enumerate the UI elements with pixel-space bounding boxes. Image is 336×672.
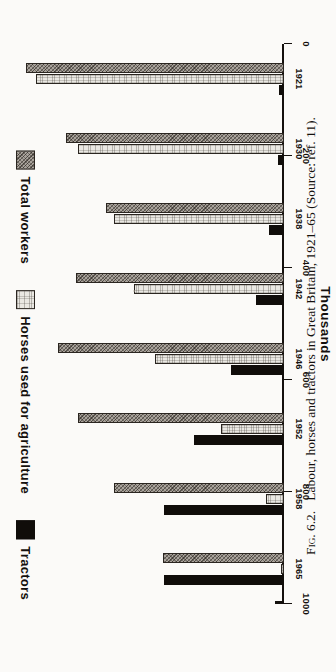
bar-group-1938: 1938 <box>106 203 284 235</box>
caption-container: Fig. 6.2. Labour, horses and tractors in… <box>290 0 332 672</box>
bar-workers-1958[interactable] <box>114 483 284 493</box>
chart-plate: Total workers Horses used for agricultur… <box>18 16 318 656</box>
bar-horses-1930[interactable] <box>78 144 284 154</box>
bar-group-1965: 1965 <box>163 553 284 585</box>
bar-horses-1965[interactable] <box>281 564 284 574</box>
bar-tractors-1952[interactable] <box>194 435 284 445</box>
bar-tractors-1930[interactable] <box>278 155 284 165</box>
bar-workers-1930[interactable] <box>66 133 284 143</box>
bar-horses-1921[interactable] <box>36 74 284 84</box>
value-axis-line <box>282 44 285 604</box>
bar-horses-1946[interactable] <box>155 354 284 364</box>
figure-caption: Fig. 6.2. Labour, horses and tractors in… <box>303 56 319 616</box>
caption-figure-number: Fig. 6.2. <box>303 511 318 555</box>
scan-speck <box>133 290 135 292</box>
bar-tractors-1946[interactable] <box>231 365 284 375</box>
bar-workers-1938[interactable] <box>106 203 284 213</box>
bar-horses-1942[interactable] <box>134 284 284 294</box>
bar-group-1930: 1930 <box>66 133 284 165</box>
bar-group-1946: 1946 <box>58 343 284 375</box>
bar-tractors-1942[interactable] <box>256 295 284 305</box>
bar-group-1921: 1921 <box>26 63 284 95</box>
scan-speck <box>20 388 22 391</box>
value-axis-end-cap <box>275 602 284 605</box>
bar-workers-1921[interactable] <box>26 63 284 73</box>
bar-group-1958: 1958 <box>114 483 284 515</box>
bar-horses-1952[interactable] <box>221 424 284 434</box>
bar-workers-1942[interactable] <box>76 273 284 283</box>
plot-area: 02004006008001000 1921193019381942194619… <box>26 44 284 604</box>
bar-workers-1965[interactable] <box>163 553 284 563</box>
bar-workers-1952[interactable] <box>78 413 284 423</box>
bar-tractors-1958[interactable] <box>164 505 284 515</box>
bar-group-1952: 1952 <box>78 413 284 445</box>
bar-workers-1946[interactable] <box>58 343 284 353</box>
bar-horses-1938[interactable] <box>114 214 284 224</box>
bar-tractors-1921[interactable] <box>279 85 284 95</box>
figure-page: Total workers Horses used for agricultur… <box>0 0 336 672</box>
caption-text: Labour, horses and tractors in Great Bri… <box>303 117 318 501</box>
bar-group-1942: 1942 <box>76 273 284 305</box>
bar-horses-1958[interactable] <box>266 494 284 504</box>
bar-tractors-1938[interactable] <box>269 225 284 235</box>
bar-tractors-1965[interactable] <box>164 575 284 585</box>
